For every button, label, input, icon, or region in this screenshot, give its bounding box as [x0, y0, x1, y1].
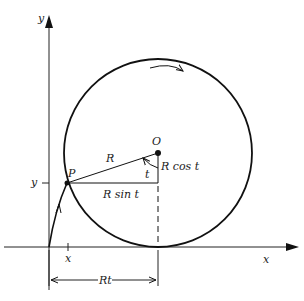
angle-label: t: [145, 168, 150, 181]
center-point-o: [155, 150, 161, 156]
y-axis: [45, 15, 53, 290]
y-axis-label: y: [37, 12, 45, 25]
center-label: O: [152, 135, 161, 148]
rotation-arrow: [150, 66, 183, 71]
y-tick-label: y: [30, 176, 38, 189]
cycloid-curve: [49, 183, 67, 247]
point-p: [65, 181, 70, 186]
point-label: P: [67, 167, 76, 180]
x-tick-label: x: [65, 252, 72, 265]
cycloid-diagram: y x O P R t R cos t R sin t y x Rt: [0, 0, 304, 301]
radius-label: R: [105, 152, 114, 165]
x-axis-label: x: [263, 253, 270, 266]
r-sin-t-label: R sin t: [102, 188, 140, 201]
r-cos-t-label: R cos t: [160, 160, 200, 173]
rt-label: Rt: [98, 274, 112, 287]
angle-arc: [143, 158, 158, 168]
